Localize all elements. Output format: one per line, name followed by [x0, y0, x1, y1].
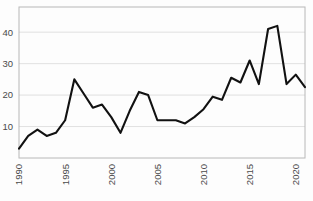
x-tick-label: 2015 — [244, 164, 255, 185]
x-tick-label: 2020 — [290, 164, 301, 185]
chart-container: 10203040 1990199520002005201020152020 — [0, 0, 313, 201]
x-tick-label: 2000 — [106, 164, 117, 185]
x-tick-label: 1990 — [13, 164, 24, 185]
line-chart: 10203040 1990199520002005201020152020 — [0, 0, 313, 201]
x-tick-label: 1995 — [60, 164, 71, 185]
x-tick-label: 2005 — [152, 164, 163, 185]
y-tick-label: 20 — [2, 89, 13, 100]
y-tick-label: 30 — [2, 58, 13, 69]
y-tick-label: 40 — [2, 27, 13, 38]
y-tick-label: 10 — [2, 121, 13, 132]
x-tick-label: 2010 — [198, 164, 209, 185]
